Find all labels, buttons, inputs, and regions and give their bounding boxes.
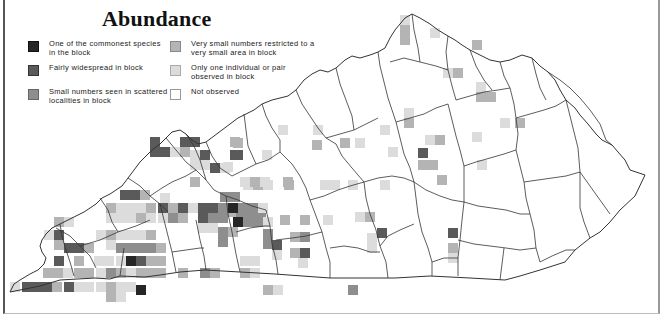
abundance-cell-scattered — [208, 213, 218, 223]
abundance-cell-restricted — [54, 217, 64, 227]
abundance-cell-single — [126, 282, 136, 292]
abundance-cell-restricted — [54, 240, 64, 250]
abundance-cell-restricted — [53, 268, 63, 278]
abundance-cell-single — [190, 150, 200, 160]
abundance-cell-single — [273, 285, 283, 295]
abundance-cell-restricted — [168, 203, 178, 213]
abundance-cell-single — [160, 193, 170, 203]
abundance-cell-widespread — [418, 148, 428, 158]
abundance-cell-single — [240, 256, 250, 266]
abundance-cell-widespread — [230, 150, 240, 160]
abundance-cell-single — [240, 177, 250, 187]
abundance-cell-single — [188, 203, 198, 213]
abundance-cell-restricted — [230, 137, 240, 147]
abundance-cell-restricted — [52, 282, 62, 292]
abundance-cell-restricted — [156, 268, 166, 278]
abundance-cell-single — [388, 147, 398, 157]
abundance-cell-restricted — [263, 285, 273, 295]
abundance-cell-single — [380, 180, 390, 190]
abundance-cell-restricted — [190, 177, 200, 187]
abundance-cells — [10, 15, 525, 302]
abundance-cell-single — [198, 223, 208, 233]
abundance-cell-restricted — [240, 268, 250, 278]
abundance-cell-scattered — [218, 227, 228, 237]
abundance-cell-restricted — [428, 160, 438, 170]
abundance-cell-single — [84, 282, 94, 292]
abundance-cell-commonest — [233, 217, 243, 227]
abundance-cell-widespread — [54, 256, 64, 266]
abundance-cell-single — [126, 230, 136, 240]
abundance-cell-commonest — [126, 256, 136, 266]
abundance-cell-restricted — [418, 160, 428, 170]
abundance-cell-widespread — [210, 163, 220, 173]
abundance-cell-restricted — [283, 177, 293, 187]
abundance-cell-single — [116, 292, 126, 302]
abundance-cell-widespread — [130, 190, 140, 200]
abundance-cell-single — [106, 240, 116, 250]
abundance-cell-scattered — [168, 213, 178, 223]
abundance-cell-scattered — [218, 213, 228, 223]
abundance-cell-scattered — [106, 268, 116, 278]
abundance-cell-widespread — [180, 137, 190, 147]
abundance-cell-restricted — [106, 292, 116, 302]
abundance-cell-scattered — [238, 203, 248, 213]
county-boundaries — [10, 14, 645, 292]
abundance-cell-single — [96, 282, 106, 292]
abundance-cell-restricted — [43, 268, 53, 278]
abundance-cell-single — [404, 108, 414, 118]
abundance-cell-single — [430, 28, 440, 38]
abundance-cell-scattered — [243, 217, 253, 227]
abundance-cell-restricted — [146, 230, 156, 240]
abundance-cell-single — [476, 82, 486, 92]
abundance-cell-restricted — [300, 215, 310, 225]
abundance-cell-restricted — [84, 268, 94, 278]
abundance-cell-restricted — [180, 147, 190, 157]
abundance-cell-single — [278, 125, 288, 135]
abundance-cell-restricted — [290, 248, 300, 258]
abundance-cell-single — [116, 213, 126, 223]
abundance-cell-restricted — [280, 215, 290, 225]
abundance-cell-widespread — [448, 228, 458, 238]
abundance-cell-scattered — [116, 243, 126, 253]
abundance-cell-single — [126, 213, 136, 223]
abundance-cell-restricted — [156, 243, 166, 253]
abundance-cell-restricted — [106, 203, 116, 213]
abundance-cell-widespread — [160, 147, 170, 157]
abundance-cell-restricted — [250, 177, 260, 187]
abundance-cell-single — [313, 125, 323, 135]
abundance-cell-restricted — [74, 268, 84, 278]
abundance-cell-restricted — [178, 268, 188, 278]
state-outline — [10, 14, 645, 292]
abundance-cell-widespread — [22, 282, 32, 292]
abundance-cell-single — [323, 215, 333, 225]
abundance-cell-restricted — [106, 282, 116, 292]
abundance-cell-single — [74, 282, 84, 292]
abundance-cell-single — [472, 132, 482, 142]
abundance-cell-restricted — [400, 35, 410, 45]
abundance-cell-single — [367, 233, 377, 243]
abundance-cell-commonest — [136, 285, 146, 295]
abundance-cell-widespread — [158, 203, 168, 213]
abundance-cell-scattered — [146, 243, 156, 253]
abundance-cell-restricted — [486, 92, 496, 102]
abundance-cell-restricted — [136, 213, 146, 223]
abundance-cell-single — [116, 282, 126, 292]
abundance-cell-restricted — [448, 243, 458, 253]
abundance-cell-restricted — [146, 256, 156, 266]
abundance-cell-restricted — [437, 175, 447, 185]
abundance-cell-widespread — [150, 147, 160, 157]
abundance-cell-widespread — [136, 256, 146, 266]
abundance-cell-single — [298, 258, 308, 268]
abundance-cell-single — [63, 268, 73, 278]
abundance-cell-single — [96, 268, 106, 278]
abundance-cell-single — [208, 223, 218, 233]
abundance-cell-single — [116, 256, 126, 266]
abundance-cell-restricted — [156, 256, 166, 266]
abundance-cell-single — [260, 177, 270, 187]
abundance-cell-single — [355, 138, 365, 148]
abundance-cell-commonest — [228, 203, 238, 213]
abundance-cell-single — [64, 217, 74, 227]
abundance-cell-widespread — [198, 213, 208, 223]
abundance-cell-single — [330, 180, 340, 190]
abundance-cell-single — [190, 160, 200, 170]
